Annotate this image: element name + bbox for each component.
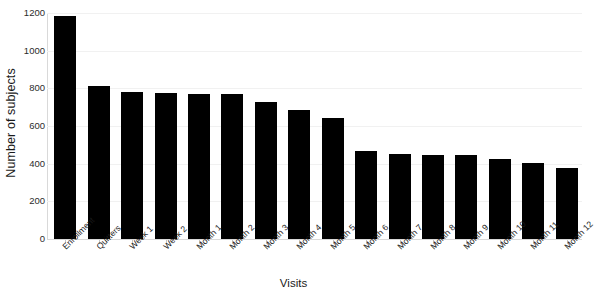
bar (322, 118, 344, 239)
y-tick-label: 1200 (11, 8, 45, 18)
x-axis-title-label: Visits (280, 277, 307, 289)
bar (121, 92, 143, 239)
plot-area (47, 13, 582, 239)
bar (155, 93, 177, 239)
y-tick-label: 200 (11, 197, 45, 207)
bar (422, 155, 444, 239)
y-tick-label: 800 (11, 84, 45, 94)
bar (288, 110, 310, 239)
y-axis-ticks: 020040060080010001200 (5, 0, 45, 297)
bar (455, 155, 477, 239)
y-tick-label: 0 (11, 234, 45, 244)
gridline (47, 51, 582, 52)
x-axis-title: Visits (0, 277, 587, 289)
gridline (47, 88, 582, 89)
y-tick-label: 600 (11, 121, 45, 131)
bar (188, 94, 210, 239)
bar (221, 94, 243, 239)
bar (556, 168, 578, 239)
y-tick-label: 1000 (11, 46, 45, 56)
bar (389, 154, 411, 239)
bar (489, 159, 511, 239)
bar (54, 16, 76, 239)
bar (255, 102, 277, 239)
bar (355, 151, 377, 239)
gridline (47, 13, 582, 14)
y-tick-label: 400 (11, 159, 45, 169)
